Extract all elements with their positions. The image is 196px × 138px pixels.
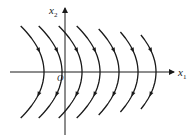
- flow-arrow-icon: [36, 91, 42, 97]
- flow-arrow-icon: [54, 91, 60, 97]
- diagram-canvas: [0, 0, 196, 138]
- flow-arrow-icon: [74, 47, 80, 53]
- flow-arrow-icon: [92, 47, 98, 53]
- x1-axis-label: x1: [178, 67, 186, 81]
- phase-portrait-diagram: x2 x1 O: [0, 0, 196, 138]
- flow-arrow-icon: [54, 47, 60, 53]
- flow-arrow-icon: [74, 91, 80, 97]
- flow-arrow-icon: [36, 47, 42, 53]
- flow-arrow-icon: [92, 91, 98, 97]
- flow-arrow-icon: [111, 47, 117, 53]
- flow-arrow-icon: [130, 91, 136, 97]
- origin-label: O: [57, 74, 64, 83]
- flow-arrow-icon: [148, 47, 154, 53]
- flow-arrow-icon: [111, 91, 117, 97]
- flow-arrow-icon: [130, 47, 136, 53]
- x2-axis-label: x2: [49, 5, 57, 19]
- flow-arrow-icon: [148, 91, 154, 97]
